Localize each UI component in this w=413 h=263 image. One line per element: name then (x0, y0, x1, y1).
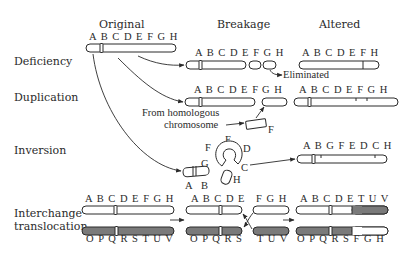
eliminated-arrow (270, 70, 282, 75)
deficiency-arrow (138, 56, 184, 65)
inversion-arrow (93, 54, 181, 171)
fragment-up-arrow (256, 107, 264, 118)
duplication-breakage-right (262, 98, 287, 106)
translocation-original-bottom (82, 227, 174, 235)
inversion-fragment-h (220, 169, 233, 185)
translocation-breakage-bottom-left (186, 227, 242, 235)
diagram-canvas (0, 0, 413, 263)
translocation-original-top (82, 206, 174, 214)
deficiency-fragment-g (249, 61, 261, 69)
deficiency-altered-chromosome (299, 61, 379, 69)
inversion-altered-arrow (250, 159, 295, 165)
duplication-fragment (246, 119, 267, 130)
duplication-arrow (118, 58, 183, 102)
translocation-breakage-bottom-right (253, 227, 289, 235)
deficiency-fragment-h (263, 61, 276, 69)
inversion-loop (216, 141, 242, 166)
inversion-altered-chromosome (297, 155, 387, 163)
translocation-swap-arrow-down (244, 213, 253, 227)
homologous-arrow (226, 123, 244, 125)
deficiency-breakage-main (186, 61, 246, 69)
translocation-breakage-top-left (186, 206, 242, 214)
translocation-breakage-top-right (253, 206, 289, 214)
duplication-breakage-left (185, 98, 255, 106)
